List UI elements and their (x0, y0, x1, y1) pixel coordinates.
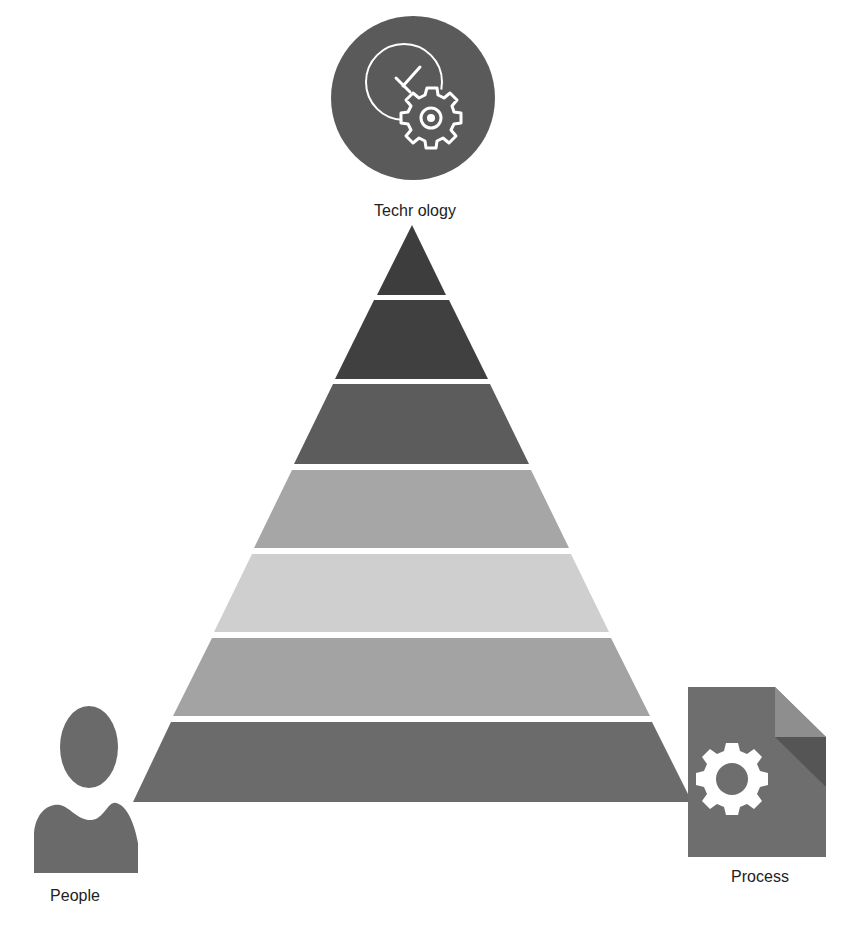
document-gear-icon (688, 687, 828, 859)
pyramid-layer-6 (173, 638, 650, 716)
pyramid-layer-7 (133, 722, 692, 802)
people-label: People (20, 887, 130, 905)
pyramid-layer-1 (377, 225, 446, 295)
pyramid-layer-3 (294, 384, 529, 464)
pyramid-layer-5 (214, 554, 609, 632)
pyramid-layer-4 (254, 470, 569, 548)
pyramid-diagram: Techr ology People P (0, 0, 865, 936)
pyramid-layer-2 (335, 300, 488, 379)
person-icon (30, 703, 142, 875)
process-label: Process (705, 868, 815, 886)
